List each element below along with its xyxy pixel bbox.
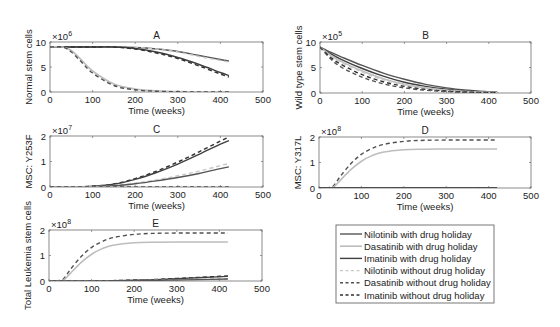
y-tick-label: 1 — [310, 157, 315, 168]
y-tick-label: 5 — [41, 62, 46, 73]
subplot-title: E — [152, 218, 159, 229]
y-axis-label: MSC: Y253F — [23, 134, 34, 188]
x-tick-label: 300 — [170, 94, 186, 105]
x-axis-label: Time (weeks) — [127, 294, 184, 305]
x-axis-label: Time (weeks) — [128, 105, 185, 116]
x-tick-label: 0 — [316, 190, 321, 201]
plot-area — [319, 137, 531, 188]
y-axis-label: MSC: Y317L — [292, 136, 303, 190]
subplot-title: B — [422, 30, 429, 41]
x-tick-label: 300 — [170, 189, 186, 200]
legend-label: Nilotinib without drug holiday — [364, 265, 485, 276]
y-tick-label: 0 — [41, 182, 46, 193]
y-exponent-label: ×108 — [321, 125, 341, 137]
legend-label: Dasatinib with drug holiday — [364, 241, 478, 252]
x-tick-label: 200 — [396, 190, 412, 201]
x-tick-label: 0 — [317, 95, 322, 106]
subplot-title: A — [153, 30, 160, 41]
x-tick-label: 400 — [481, 190, 497, 201]
x-tick-label: 100 — [85, 94, 101, 105]
subplot-c: 0100200300400500012×107CTime (weeks)MSC:… — [23, 124, 271, 211]
x-tick-label: 500 — [523, 95, 539, 106]
y-axis-label: Total Leukemia stem cells — [22, 201, 33, 310]
legend-label: Dasatinib without drug holiday — [364, 277, 491, 288]
legend: Nilotinib with drug holidayDasatinib wit… — [336, 225, 494, 303]
x-tick-label: 300 — [169, 283, 185, 294]
y-tick-label: 2 — [40, 225, 45, 236]
x-axis-label: Time (weeks) — [128, 200, 185, 211]
y-tick-label: 1 — [41, 156, 46, 167]
legend-label: Imatinib with drug holiday — [364, 253, 471, 264]
x-tick-label: 100 — [84, 283, 100, 294]
y-axis-label: Wild type stem cells — [293, 25, 304, 109]
y-exponent-label: ×108 — [51, 218, 71, 230]
y-tick-label: 0 — [40, 276, 45, 287]
x-tick-label: 200 — [127, 189, 143, 200]
y-tick-label: 10 — [35, 37, 46, 48]
y-exponent-label: ×106 — [52, 30, 72, 42]
legend-label: Imatinib without drug holiday — [364, 290, 485, 301]
x-tick-label: 300 — [439, 95, 455, 106]
subplot-a: 01002003004005000510×106ATime (weeks)Nor… — [23, 29, 271, 116]
plot-area — [49, 230, 262, 281]
y-exponent-label: ×105 — [322, 30, 342, 42]
x-tick-label: 300 — [438, 190, 454, 201]
y-axis-label: Normal stem cells — [23, 29, 34, 105]
x-tick-label: 500 — [523, 190, 539, 201]
y-exponent-label: ×107 — [52, 124, 72, 136]
y-tick-label: 2 — [41, 131, 46, 142]
x-tick-label: 0 — [47, 94, 52, 105]
x-tick-label: 100 — [353, 190, 369, 201]
x-tick-label: 500 — [255, 94, 271, 105]
x-tick-label: 400 — [212, 189, 228, 200]
x-tick-label: 200 — [127, 94, 143, 105]
x-axis-label: Time (weeks) — [397, 201, 454, 212]
subplot-e: 0100200300400500012×108ETime (weeks)Tota… — [22, 201, 270, 310]
x-tick-label: 400 — [212, 94, 228, 105]
subplot-b: 01002003004005000510×105BTime (weeks)Wil… — [293, 25, 539, 117]
x-tick-label: 100 — [354, 95, 370, 106]
x-tick-label: 0 — [47, 189, 52, 200]
subplot-d: 0100200300400500012×108DTime (weeks)MSC:… — [292, 125, 539, 212]
x-tick-label: 400 — [481, 95, 497, 106]
x-tick-label: 200 — [126, 283, 142, 294]
y-tick-label: 0 — [310, 183, 315, 194]
y-tick-label: 0 — [41, 87, 46, 98]
y-tick-label: 0 — [311, 88, 316, 99]
subplot-title: D — [421, 125, 428, 136]
x-tick-label: 500 — [255, 189, 271, 200]
legend-label: Nilotinib with drug holiday — [364, 229, 472, 240]
x-tick-label: 200 — [396, 95, 412, 106]
y-tick-label: 10 — [305, 37, 316, 48]
subplot-title: C — [153, 124, 160, 135]
x-tick-label: 500 — [254, 283, 270, 294]
figure-canvas: 01002003004005000510×106ATime (weeks)Nor… — [0, 0, 560, 327]
x-tick-label: 100 — [85, 189, 101, 200]
x-tick-label: 400 — [211, 283, 227, 294]
x-axis-label: Time (weeks) — [397, 106, 454, 117]
x-tick-label: 0 — [46, 283, 51, 294]
y-tick-label: 2 — [310, 132, 315, 143]
y-tick-label: 5 — [311, 62, 316, 73]
y-tick-label: 1 — [40, 250, 45, 261]
